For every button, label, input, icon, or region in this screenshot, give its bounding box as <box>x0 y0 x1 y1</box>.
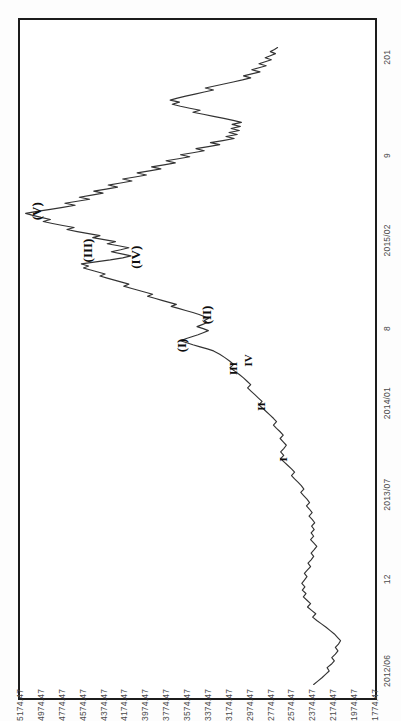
y-tick-label: 4574.47 <box>78 704 88 721</box>
x-tick-label: 2012/06 <box>382 655 392 687</box>
rotated-chart-stage: 2012/06122013/072014/0182015/029201 5174… <box>0 0 401 721</box>
wave-label-iv: (IV) <box>128 246 144 269</box>
y-tick-label: 2574.47 <box>286 704 296 721</box>
x-tick-label: 2014/01 <box>382 387 392 419</box>
wave-label-iii: III <box>227 362 239 375</box>
y-tick-label: 3574.47 <box>182 704 192 721</box>
y-tick-label: 4374.47 <box>99 704 109 721</box>
x-tick-label: 2015/02 <box>382 224 392 256</box>
y-tick-label: 2374.47 <box>307 704 317 721</box>
wave-label-ii: (II) <box>199 306 215 325</box>
x-tick-label: 2013/07 <box>382 479 392 511</box>
y-tick-label: 1774.47 <box>370 704 380 721</box>
y-tick-label: 4774.47 <box>57 704 67 721</box>
wave-label-i: I <box>277 457 289 461</box>
wave-label-iii: (III) <box>80 239 96 263</box>
y-tick-label: 5174.47 <box>15 704 25 721</box>
y-tick-label: 3774.47 <box>161 704 171 721</box>
y-tick-label: 2174.47 <box>328 704 338 721</box>
x-tick-label: 8 <box>382 326 392 331</box>
x-tick-label: 201 <box>382 50 392 65</box>
wave-label-v: (V) <box>29 202 45 220</box>
y-tick-label: 3374.47 <box>203 704 213 721</box>
y-tick-label: 3974.47 <box>140 704 150 721</box>
y-tick-label: 1974.47 <box>349 704 359 721</box>
y-tick-label: 3174.47 <box>224 704 234 721</box>
price-series-line <box>26 48 341 685</box>
wave-label-i: (I) <box>174 339 190 353</box>
y-tick-label: 2774.47 <box>266 704 276 721</box>
chart-frame <box>18 18 377 700</box>
scanned-page: 2012/06122013/072014/0182015/029201 5174… <box>0 0 401 721</box>
price-line-chart <box>20 20 375 698</box>
x-tick-label: 12 <box>382 574 392 584</box>
x-tick-label: 9 <box>382 153 392 158</box>
plot-area <box>20 20 375 698</box>
wave-label-ii: II <box>255 402 267 411</box>
y-tick-label: 4174.47 <box>119 704 129 721</box>
y-tick-label: 2974.47 <box>245 704 255 721</box>
wave-label-iv: IV <box>242 354 254 366</box>
y-tick-label: 4974.47 <box>36 704 46 721</box>
